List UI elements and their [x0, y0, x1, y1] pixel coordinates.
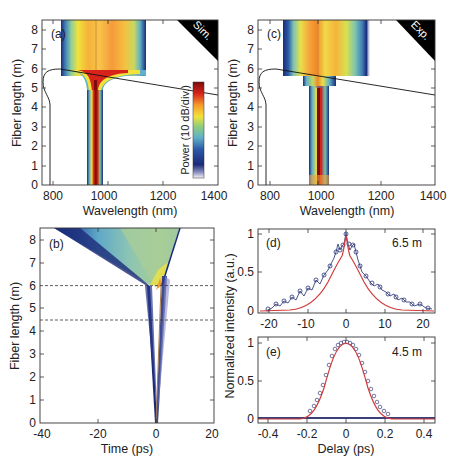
panel-e-label: (e) — [266, 345, 281, 359]
panel-c-label: (c) — [267, 27, 281, 41]
panel-b-ylabel: Fiber length (m) — [8, 282, 22, 370]
panel-a-xaxis: 800 1000 1200 1400 — [43, 189, 228, 203]
svg-text:5: 5 — [29, 301, 36, 315]
colorbar-label: Power (10 dB/div.) — [179, 85, 191, 175]
svg-text:-40: -40 — [33, 427, 51, 441]
panel-b-yaxis: 0 1 2 3 4 5 6 7 8 — [29, 233, 36, 430]
svg-text:3: 3 — [31, 120, 38, 134]
figure: Sim. Power (10 dB/div.) (a) 0 1 2 3 4 5 … — [0, 0, 455, 468]
svg-text:6: 6 — [29, 279, 36, 293]
dispersion-curve — [259, 69, 435, 185]
svg-text:4: 4 — [29, 324, 36, 338]
svg-text:2: 2 — [29, 370, 36, 384]
svg-text:20: 20 — [205, 427, 219, 441]
svg-text:1000: 1000 — [91, 189, 118, 203]
svg-text:7: 7 — [31, 42, 38, 56]
svg-text:0: 0 — [343, 317, 350, 331]
svg-text:20: 20 — [416, 317, 430, 331]
svg-text:-0.4: -0.4 — [258, 427, 279, 441]
panel-c-exp-spectrum — [259, 20, 435, 185]
broad-spectrum-region — [61, 20, 146, 76]
panel-de-ylabel: Normalized intensity (a.u.) — [223, 253, 237, 398]
svg-text:4: 4 — [31, 100, 38, 114]
svg-text:800: 800 — [260, 189, 280, 203]
svg-text:0.5: 0.5 — [237, 265, 254, 279]
colorbar — [193, 82, 204, 178]
panel-e-xaxis: -0.4 -0.2 0 0.2 0.4 — [258, 427, 433, 441]
panel-b-xaxis: -40 -20 0 20 — [33, 427, 219, 441]
svg-text:1000: 1000 — [308, 189, 335, 203]
panel-b-temporal — [54, 228, 180, 423]
svg-text:5: 5 — [247, 81, 254, 95]
svg-text:800: 800 — [43, 189, 63, 203]
svg-text:1200: 1200 — [368, 189, 395, 203]
svg-text:0.5: 0.5 — [237, 374, 254, 388]
svg-text:1: 1 — [31, 159, 38, 173]
svg-text:0: 0 — [247, 304, 254, 318]
svg-text:-10: -10 — [297, 317, 315, 331]
panel-d-yaxis: 0 0.5 1 — [237, 227, 254, 318]
panel-d-label: (d) — [266, 236, 281, 250]
panel-e-annotation: 4.5 m — [392, 345, 422, 359]
svg-text:6: 6 — [31, 62, 38, 76]
dispersion-curve — [43, 69, 218, 185]
spectral-flare — [64, 70, 146, 185]
svg-text:-20: -20 — [260, 317, 278, 331]
svg-text:7: 7 — [29, 256, 36, 270]
panel-e-xlabel: Delay (ps) — [318, 442, 375, 456]
svg-text:3: 3 — [247, 120, 254, 134]
svg-text:0: 0 — [247, 178, 254, 192]
broad-spectrum-region — [283, 20, 371, 76]
svg-text:4: 4 — [247, 100, 254, 114]
panel-c-xaxis: 800 1000 1200 1400 — [260, 189, 447, 203]
svg-text:1: 1 — [247, 159, 254, 173]
panel-b-xlabel: Time (ps) — [101, 442, 153, 456]
panel-c-xlabel: Wavelength (nm) — [300, 204, 395, 218]
panel-a-ylabel: Fiber length (m) — [10, 59, 24, 147]
panel-a-yaxis: 0 1 2 3 4 5 6 7 8 — [31, 23, 38, 192]
svg-text:1: 1 — [29, 393, 36, 407]
svg-text:8: 8 — [247, 23, 254, 37]
svg-text:1: 1 — [247, 336, 254, 350]
svg-text:0.2: 0.2 — [377, 427, 394, 441]
svg-text:1200: 1200 — [150, 189, 177, 203]
panel-a-sim-spectrum — [43, 20, 218, 185]
mid-spectrum-step — [303, 76, 336, 86]
svg-text:3: 3 — [29, 347, 36, 361]
panel-c-yaxis: 0 1 2 3 4 5 6 7 8 — [247, 23, 254, 192]
svg-text:2: 2 — [247, 139, 254, 153]
svg-text:1: 1 — [247, 227, 254, 241]
svg-text:0: 0 — [343, 427, 350, 441]
panel-c-ylabel: Fiber length (m) — [226, 59, 240, 147]
panel-e-yaxis: 0 0.5 1 — [237, 336, 254, 426]
svg-text:8: 8 — [29, 233, 36, 247]
svg-text:10: 10 — [378, 317, 392, 331]
svg-text:0: 0 — [153, 427, 160, 441]
svg-text:1400: 1400 — [420, 189, 447, 203]
panel-a-label: (a) — [51, 27, 66, 41]
svg-text:2: 2 — [31, 139, 38, 153]
svg-text:0: 0 — [31, 178, 38, 192]
panel-d-xaxis: -20 -10 0 10 20 — [260, 317, 430, 331]
svg-text:8: 8 — [31, 23, 38, 37]
panel-b-label: (b) — [49, 237, 64, 251]
svg-text:5: 5 — [31, 81, 38, 95]
svg-text:0.4: 0.4 — [416, 427, 433, 441]
svg-text:1400: 1400 — [201, 189, 228, 203]
svg-text:-0.2: -0.2 — [297, 427, 318, 441]
panel-a-xlabel: Wavelength (nm) — [83, 204, 178, 218]
svg-text:7: 7 — [247, 42, 254, 56]
svg-text:0: 0 — [247, 412, 254, 426]
svg-text:6: 6 — [247, 62, 254, 76]
measured-points-e — [308, 340, 390, 416]
panel-d-annotation: 6.5 m — [392, 236, 422, 250]
svg-text:-20: -20 — [89, 427, 107, 441]
